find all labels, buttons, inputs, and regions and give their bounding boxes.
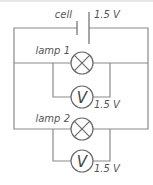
cell-voltage-label: 1.5 V [94,9,121,20]
voltmeter-2-reading: 1.5 V [94,163,121,174]
voltmeter-1-symbol-text: V [77,89,89,107]
wire-vm1-right [93,63,110,97]
wire-right-loop [89,28,148,129]
voltmeter-2-symbol-text: V [77,153,89,171]
circuit-diagram: cell 1.5 V lamp 1 V 1.5 V lamp 2 V 1.5 V [0,0,153,185]
lamp-1-symbol [71,52,93,74]
voltmeter-1-reading: 1.5 V [94,99,121,110]
voltmeter-1-symbol: V [71,86,93,108]
wire-vm2-right [93,129,110,161]
cell-label: cell [55,9,72,20]
wire-vm2-left [53,129,71,161]
lamp-2-label: lamp 2 [35,113,70,124]
voltmeter-2-symbol: V [71,150,93,172]
wire-vm1-left [53,63,71,97]
lamp-2-symbol [71,118,93,140]
lamp-1-label: lamp 1 [35,45,70,56]
cell-symbol [77,12,89,44]
